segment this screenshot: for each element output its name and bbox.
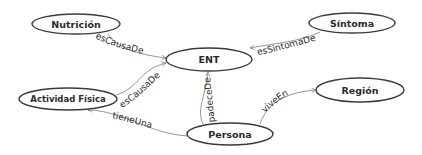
edge-label-escausade-nutricion: esCausaDe — [94, 31, 145, 56]
edge-persona-to-actividad: tieneUna — [88, 110, 188, 136]
edge-sintoma-to-ent: esSintomaDe — [250, 32, 320, 57]
edge-label-escausade-actividad: esCausaDe — [118, 70, 163, 110]
edge-nutricion-to-ent: esCausaDe — [94, 31, 166, 58]
edge-persona-to-region: viveEn — [259, 88, 316, 124]
node-label-sintoma: Síntoma — [330, 18, 374, 29]
edge-persona-to-ent: padeceDe — [201, 72, 217, 124]
ontology-diagram: esCausaDe esCausaDe esSintomaDe padeceDe… — [0, 0, 422, 155]
node-ent: ENT — [166, 48, 252, 71]
edge-label-essintomade: esSintomaDe — [256, 33, 317, 57]
node-actividad-fisica: Actividad Física — [19, 88, 117, 110]
node-label-nutricion: Nutrición — [51, 19, 101, 30]
edge-label-padecede: padeceDe — [202, 76, 217, 123]
node-label-ent: ENT — [199, 54, 220, 65]
edge-actividad-to-ent: esCausaDe — [116, 63, 166, 110]
edge-label-tieneuna: tieneUna — [112, 110, 154, 130]
node-label-actividad-fisica: Actividad Física — [30, 94, 106, 104]
node-persona: Persona — [187, 123, 273, 145]
node-label-region: Región — [341, 85, 378, 96]
node-label-persona: Persona — [208, 129, 251, 140]
node-region: Región — [316, 78, 404, 102]
node-nutricion: Nutrición — [32, 14, 120, 34]
edge-label-viveen: viveEn — [259, 88, 289, 115]
node-sintoma: Síntoma — [309, 13, 395, 33]
